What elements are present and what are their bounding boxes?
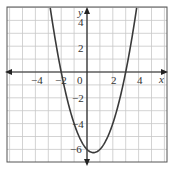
x-tick-label: 2 bbox=[111, 74, 117, 86]
y-tick-label: −2 bbox=[72, 92, 84, 104]
x-tick-label: −4 bbox=[31, 74, 43, 86]
x-tick-label: −2 bbox=[55, 74, 67, 86]
y-axis bbox=[84, 7, 90, 166]
y-tick-label: −6 bbox=[70, 143, 82, 155]
y-axis-label: y bbox=[77, 6, 83, 18]
x-tick-label: 4 bbox=[137, 74, 143, 86]
x-axis-label: x bbox=[158, 73, 164, 85]
arrow-left-icon bbox=[5, 69, 12, 75]
parabola-graph: −4 −2 0 2 4 x 4 2 −2 −4 −6 y bbox=[0, 0, 177, 171]
y-tick-label: −4 bbox=[72, 118, 84, 130]
y-tick-label: 2 bbox=[78, 42, 84, 54]
origin-label: 0 bbox=[77, 74, 83, 86]
arrow-up-icon bbox=[84, 7, 90, 14]
